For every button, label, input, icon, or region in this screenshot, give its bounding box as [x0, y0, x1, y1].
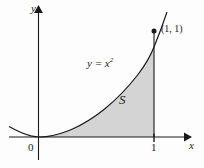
- x-axis-label: x: [189, 140, 194, 151]
- curve-equation-label: y = x2: [87, 57, 113, 69]
- y-axis-label: y: [31, 3, 36, 14]
- point-marker-1-1: [152, 29, 157, 34]
- origin-label: 0: [28, 142, 34, 153]
- graph-figure: y x 0 1 y = x2 S (1, 1): [0, 0, 204, 168]
- point-label-1-1: (1, 1): [161, 24, 183, 34]
- x-tick-label-1: 1: [151, 142, 157, 153]
- curve-equation-base: y = x: [87, 57, 110, 69]
- curve-equation-exponent: 2: [110, 56, 114, 64]
- region-label-s: S: [119, 93, 126, 106]
